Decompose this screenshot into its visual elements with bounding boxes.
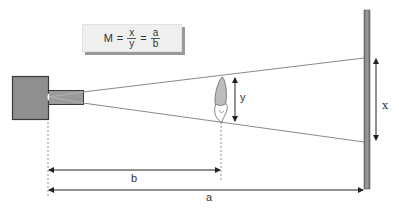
fraction-denominator: b	[151, 39, 161, 49]
magnification-diagram: M = x y = a b y x b a	[0, 0, 399, 213]
fraction-numerator: x	[127, 28, 136, 39]
distance-a-label: a	[206, 191, 212, 203]
distance-b-label: b	[131, 172, 137, 184]
image-receptor	[364, 10, 370, 189]
fraction-denominator: y	[127, 39, 136, 49]
tooth-object	[215, 77, 228, 122]
image-size-label: x	[382, 99, 388, 112]
diagram-canvas	[0, 0, 399, 213]
formula-equals: =	[140, 32, 146, 44]
fraction-numerator: a	[151, 28, 161, 39]
formula-equals: =	[117, 32, 123, 44]
object-size-label: y	[240, 91, 246, 103]
fraction-x-over-y: x y	[127, 28, 136, 49]
magnification-formula: M = x y = a b	[82, 24, 182, 52]
tooth-root	[215, 104, 228, 122]
xray-source	[13, 77, 84, 120]
tube-head	[13, 77, 49, 120]
formula-lhs: M	[104, 32, 113, 44]
fraction-a-over-b: a b	[151, 28, 161, 49]
